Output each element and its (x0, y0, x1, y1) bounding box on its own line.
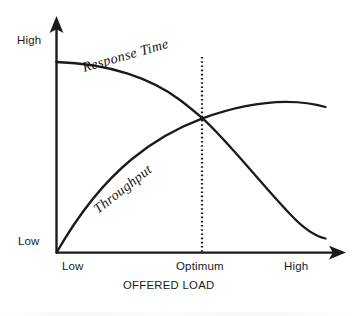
x-axis-title: OFFERED LOAD (123, 279, 214, 291)
y-axis-low-label: Low (18, 235, 40, 247)
x-axis-tick-optimum: Optimum (176, 260, 224, 272)
performance-curve-figure: Response Time Throughput High Low Low Op… (0, 0, 357, 316)
y-axis-labels-group: High Low (17, 34, 41, 247)
y-axis-high-label: High (17, 34, 41, 46)
x-axis-labels-group: Low Optimum High (62, 260, 308, 272)
response-time-curve-label: Response Time (80, 36, 170, 75)
x-axis-tick-high: High (284, 260, 308, 272)
throughput-curve (57, 102, 326, 253)
axes-group (50, 16, 346, 260)
series-labels-group: Response Time Throughput (80, 36, 170, 216)
x-axis-tick-low: Low (62, 260, 84, 272)
chart-canvas: Response Time Throughput High Low Low Op… (0, 0, 357, 316)
curves-group (57, 62, 326, 253)
